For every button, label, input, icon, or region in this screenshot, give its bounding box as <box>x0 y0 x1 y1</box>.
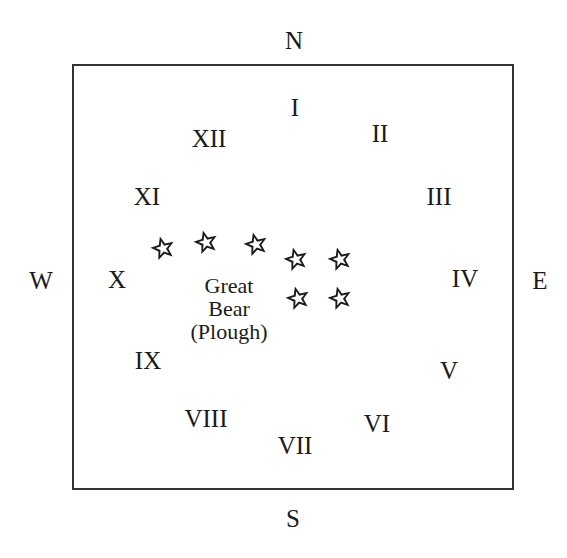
hour-marker-viii: VIII <box>184 406 227 431</box>
label-line-3: (Plough) <box>191 320 268 343</box>
hour-marker-vi: VI <box>364 411 390 436</box>
label-line-1: Great <box>191 274 268 297</box>
hour-marker-i: I <box>291 95 299 120</box>
star-icon <box>149 234 177 262</box>
star-icon <box>326 284 354 312</box>
star-icon <box>192 228 220 256</box>
hour-marker-ii: II <box>372 121 389 146</box>
hour-marker-iv: IV <box>452 266 478 291</box>
constellation-label: Great Bear (Plough) <box>191 274 268 343</box>
star-icon <box>282 245 310 273</box>
hour-marker-ix: IX <box>135 348 161 373</box>
star-icon <box>284 284 312 312</box>
compass-west: W <box>29 268 53 293</box>
hour-marker-xi: XI <box>134 184 160 209</box>
hour-marker-v: V <box>440 358 458 383</box>
hour-marker-x: X <box>108 267 126 292</box>
label-line-2: Bear <box>191 297 268 320</box>
star-icon <box>242 230 270 258</box>
hour-marker-iii: III <box>427 184 452 209</box>
hour-marker-xii: XII <box>192 126 227 151</box>
sky-frame <box>72 64 514 490</box>
hour-marker-vii: VII <box>278 433 313 458</box>
star-icon <box>326 245 354 273</box>
compass-east: E <box>532 268 547 293</box>
compass-south: S <box>286 506 300 531</box>
compass-north: N <box>285 28 303 53</box>
